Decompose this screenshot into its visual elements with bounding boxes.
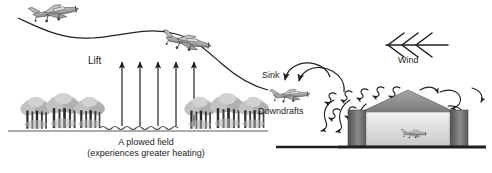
tree-cluster-icon-left <box>20 93 105 129</box>
airplane-icon-upper-right <box>161 29 213 54</box>
downdrafts-label: Downdrafts <box>258 106 304 116</box>
wind-arrow-icon <box>386 33 448 57</box>
up-arrow-icon-group <box>122 62 194 126</box>
hangar-icon <box>276 90 486 147</box>
diagram-canvas: Lift Sink Downdrafts Wind A plowed field… <box>0 0 492 173</box>
sink-label: Sink <box>262 70 280 80</box>
airplane-icon-upper-left <box>28 0 80 25</box>
airplane-icon-sinking <box>270 87 311 104</box>
plowed-field-caption: A plowed field (experiences greater heat… <box>66 137 226 159</box>
wind-label: Wind <box>398 55 419 65</box>
curved-down-arrow-icon-group <box>285 63 344 92</box>
field-caption-line1: A plowed field <box>66 137 226 148</box>
tree-cluster-icon-right <box>184 93 269 129</box>
lift-label: Lift <box>88 55 101 66</box>
flight-path-curve <box>18 18 268 90</box>
field-caption-line2: (experiences greater heating) <box>66 148 226 159</box>
